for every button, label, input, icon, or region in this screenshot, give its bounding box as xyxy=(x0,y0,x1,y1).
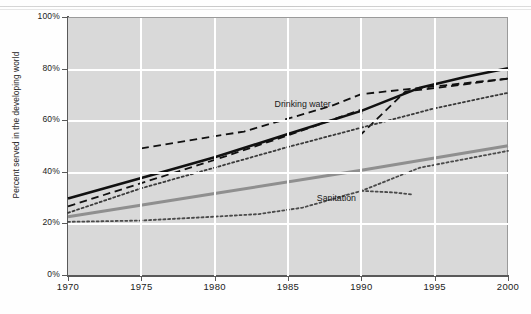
x-tick-mark xyxy=(215,276,216,281)
y-axis-title: Percent served in the developing world xyxy=(11,25,21,225)
y-tick-label: 60% xyxy=(0,114,60,124)
x-tick-label: 1970 xyxy=(38,281,98,292)
x-tick-label: 1980 xyxy=(185,281,245,292)
x-tick-mark xyxy=(141,276,142,281)
y-tick-label: 100% xyxy=(0,11,60,21)
series-annotation-label: Drinking water xyxy=(275,99,331,109)
x-tick-label: 2000 xyxy=(478,281,531,292)
gridline-vertical xyxy=(434,18,436,276)
x-tick-label: 1975 xyxy=(111,281,171,292)
y-tick-mark xyxy=(62,17,68,18)
scan-artifact-line-secondary xyxy=(0,9,531,10)
x-tick-mark xyxy=(508,276,509,281)
y-tick-label: 20% xyxy=(0,217,60,227)
plot-area xyxy=(68,17,508,275)
y-tick-label: 0% xyxy=(0,269,60,279)
x-tick-mark xyxy=(361,276,362,281)
x-tick-label: 1985 xyxy=(258,281,318,292)
x-tick-label: 1990 xyxy=(331,281,391,292)
y-tick-mark xyxy=(62,69,68,70)
series-annotation-label: Sanitation xyxy=(317,193,356,203)
gridline-vertical xyxy=(287,18,289,276)
x-tick-label: 1995 xyxy=(405,281,465,292)
y-tick-label: 40% xyxy=(0,166,60,176)
y-tick-mark xyxy=(62,172,68,173)
x-tick-mark xyxy=(435,276,436,281)
x-tick-mark xyxy=(288,276,289,281)
scan-artifact-line xyxy=(0,6,531,7)
y-tick-label: 80% xyxy=(0,63,60,73)
gridline-vertical xyxy=(214,18,216,276)
y-tick-mark xyxy=(62,120,68,121)
x-tick-mark xyxy=(68,276,69,281)
gridline-vertical xyxy=(140,18,142,276)
series-line xyxy=(361,191,412,195)
chart-root: Percent served in the developing world 0… xyxy=(0,0,531,314)
gridline-vertical xyxy=(360,18,362,276)
y-tick-mark xyxy=(62,223,68,224)
